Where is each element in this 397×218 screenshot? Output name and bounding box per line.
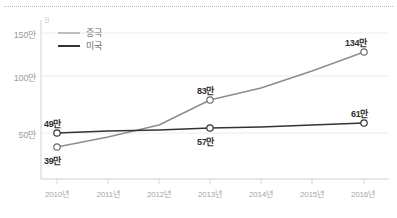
chart-container: 건 150만 100만 50만 2010년 2011년 2012년 2013년 …	[0, 0, 397, 218]
data-label-china-2013: 83만	[197, 84, 214, 97]
plot-area	[0, 0, 397, 218]
marker-china-2016	[361, 49, 367, 55]
marker-usa-2010	[54, 130, 60, 136]
data-label-china-2010: 39만	[44, 154, 61, 167]
marker-china-2013	[207, 97, 213, 103]
marker-china-2010	[54, 144, 60, 150]
data-label-usa-2016: 61만	[351, 107, 368, 120]
marker-usa-2016	[361, 120, 367, 126]
data-label-usa-2010: 49만	[44, 117, 61, 130]
data-label-china-2016: 134만	[345, 36, 367, 49]
marker-usa-2013	[207, 125, 213, 131]
data-label-usa-2013: 57만	[197, 135, 214, 148]
